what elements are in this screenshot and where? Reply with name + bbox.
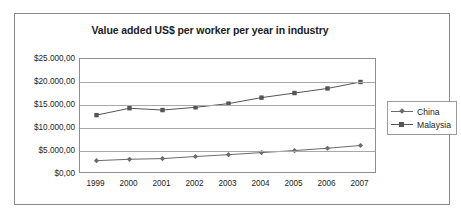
data-point-malaysia-2006 — [325, 86, 329, 90]
y-axis-tick-label: $0,00 — [13, 169, 75, 178]
data-point-china-2000 — [127, 157, 132, 162]
x-axis-tick-label: 2000 — [119, 179, 137, 188]
y-axis-tick-label: $25.000,00 — [13, 54, 75, 63]
y-axis-tick-label: $5.000,00 — [13, 146, 75, 155]
x-axis-tick-label: 2001 — [152, 179, 170, 188]
plot-area — [79, 58, 376, 173]
series-line-malaysia — [97, 82, 361, 115]
series-layer — [80, 59, 377, 174]
x-axis-tick-label: 1999 — [86, 179, 104, 188]
y-axis-labels: $0,00$5.000,00$10.000,00$15.000,00$20.00… — [15, 58, 75, 173]
square-marker-icon — [391, 119, 413, 130]
x-axis-tick-label: 2005 — [284, 179, 302, 188]
cut-off-text-sliver: · · · · · — [0, 0, 461, 9]
x-axis-tick-label: 2004 — [251, 179, 269, 188]
chart-screenshot: · · · · · Value added US$ per worker per… — [0, 0, 461, 218]
data-point-malaysia-2001 — [160, 108, 164, 112]
diamond-marker-icon — [391, 106, 413, 117]
data-point-malaysia-2000 — [127, 106, 131, 110]
y-axis-tick-label: $10.000,00 — [13, 123, 75, 132]
data-point-china-2001 — [160, 156, 165, 161]
legend-item-china: China — [391, 105, 451, 118]
data-point-china-1999 — [94, 158, 99, 163]
gridline — [80, 105, 375, 106]
legend-label: Malaysia — [413, 120, 451, 130]
data-point-malaysia-1999 — [94, 113, 98, 117]
gridline — [80, 151, 375, 152]
y-axis-tick-label: $20.000,00 — [13, 77, 75, 86]
x-axis-tick-label: 2002 — [185, 179, 203, 188]
data-point-china-2003 — [226, 152, 231, 157]
gridline — [80, 128, 375, 129]
chart-title: Value added US$ per worker per year in i… — [15, 24, 405, 36]
cut-off-text: · · · · · — [26, 0, 49, 1]
gridline — [80, 82, 375, 83]
legend-item-malaysia: Malaysia — [391, 118, 451, 131]
x-axis-tick-label: 2006 — [317, 179, 335, 188]
data-point-china-2002 — [193, 154, 198, 159]
x-axis-tick-label: 2007 — [350, 179, 368, 188]
y-axis-tick-label: $15.000,00 — [13, 100, 75, 109]
legend-label: China — [413, 107, 439, 117]
data-point-china-2007 — [358, 143, 363, 148]
data-point-malaysia-2005 — [292, 91, 296, 95]
chart-container: Value added US$ per worker per year in i… — [14, 13, 450, 205]
data-point-malaysia-2004 — [259, 95, 263, 99]
x-axis-tick-label: 2003 — [218, 179, 236, 188]
chart-legend: ChinaMalaysia — [387, 101, 457, 135]
